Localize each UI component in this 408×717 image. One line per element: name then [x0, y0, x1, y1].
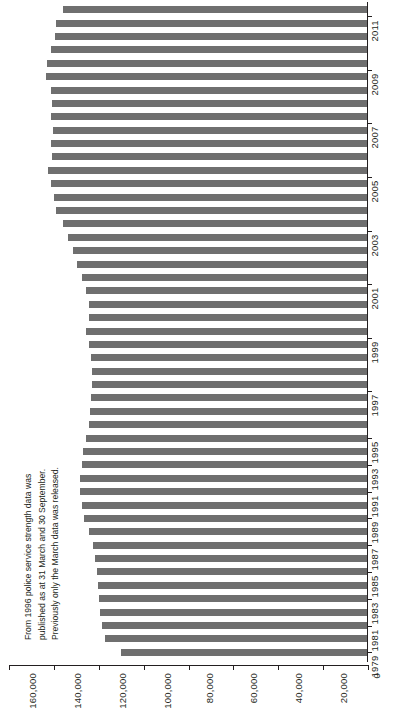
bar	[63, 6, 368, 13]
value-tick	[278, 665, 279, 670]
value-tick-label: 40,000	[293, 673, 304, 703]
value-tick-label: 80,000	[204, 673, 215, 703]
bar	[47, 60, 368, 67]
category-tick-label: 2005	[369, 163, 380, 203]
bar	[51, 140, 368, 147]
bar	[121, 649, 368, 656]
bar	[56, 20, 368, 27]
bar	[82, 274, 368, 281]
bar	[83, 448, 368, 455]
bar	[89, 421, 368, 428]
bar	[80, 475, 368, 482]
bar	[48, 167, 368, 174]
category-tick-label: 1997	[369, 377, 380, 417]
category-tick-label: 2003	[369, 216, 380, 256]
bar	[100, 609, 368, 616]
value-axis: 160,000140,000120,000100,00080,00060,000…	[0, 661, 408, 717]
bar	[105, 635, 368, 642]
bar	[54, 194, 368, 201]
bar	[89, 341, 368, 348]
bar	[51, 180, 368, 187]
bar	[93, 542, 368, 549]
value-tick-label: 100,000	[162, 673, 173, 709]
category-tick-label: 2011	[369, 2, 380, 42]
bar	[84, 515, 368, 522]
annotation-line-1: From 1996 police service strength data w…	[22, 430, 36, 640]
bar	[53, 127, 368, 134]
value-tick	[54, 665, 55, 670]
bar	[89, 528, 368, 535]
bar	[77, 261, 368, 268]
bar	[91, 354, 368, 361]
category-tick-label: 2009	[369, 55, 380, 95]
bar	[86, 435, 368, 442]
bar	[52, 100, 368, 107]
value-tick	[144, 665, 145, 670]
value-tick-label: 0	[371, 673, 382, 678]
bar	[51, 113, 368, 120]
category-axis: 1979198119831985198719891991199319951997…	[368, 0, 408, 662]
annotation-line-2: published as at 31 March and 30 Septembe…	[36, 430, 50, 640]
value-tick-label: 120,000	[117, 673, 128, 709]
bar	[98, 582, 368, 589]
bar	[46, 73, 368, 80]
bar	[92, 368, 368, 375]
bar	[99, 595, 368, 602]
bar	[89, 314, 368, 321]
bar	[89, 301, 368, 308]
chart-annotation: From 1996 police service strength data w…	[22, 430, 63, 640]
bar	[51, 46, 368, 53]
bar	[51, 87, 368, 94]
category-tick-label: 1999	[369, 323, 380, 363]
category-tick-label: 2001	[369, 270, 380, 310]
bar	[95, 555, 368, 562]
value-tick	[233, 665, 234, 670]
value-tick-label: 20,000	[338, 673, 349, 703]
bar	[55, 33, 368, 40]
category-tick-label: 2007	[369, 109, 380, 149]
value-tick-label: 60,000	[249, 673, 260, 703]
bar	[68, 234, 368, 241]
bar	[63, 220, 368, 227]
value-tick	[368, 665, 369, 670]
value-tick	[99, 665, 100, 670]
bar	[73, 247, 368, 254]
value-tick-label: 160,000	[27, 673, 38, 709]
bar	[82, 461, 368, 468]
value-tick-label: 140,000	[72, 673, 83, 709]
annotation-line-3: Previously only the March data was relea…	[49, 430, 63, 640]
bar	[82, 502, 368, 509]
bar	[92, 381, 368, 388]
value-tick	[189, 665, 190, 670]
bar	[86, 328, 368, 335]
bar	[52, 153, 368, 160]
value-tick	[323, 665, 324, 670]
value-tick	[9, 665, 10, 670]
bar	[102, 622, 368, 629]
bar	[86, 287, 368, 294]
bar	[97, 568, 368, 575]
category-tick-label: 1995	[369, 424, 380, 464]
bar	[56, 207, 368, 214]
bar	[91, 394, 368, 401]
bar	[90, 408, 368, 415]
bar-chart: 1979198119831985198719891991199319951997…	[0, 0, 408, 717]
bar	[80, 488, 368, 495]
